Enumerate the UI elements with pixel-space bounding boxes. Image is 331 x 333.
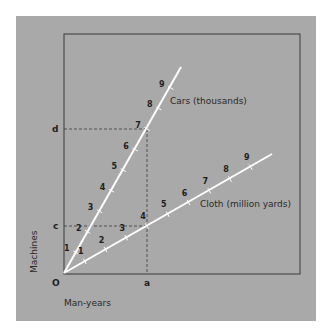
tick-label: 5 <box>161 200 167 209</box>
cloth-ray <box>64 154 272 273</box>
tick-label: 8 <box>147 100 153 109</box>
origin-label: O <box>52 278 60 288</box>
tick-label: 8 <box>223 165 229 174</box>
tick-label: 9 <box>244 153 250 162</box>
tick-label: 7 <box>202 177 208 186</box>
tick-label: 1 <box>78 247 84 256</box>
tick-label: 5 <box>112 162 118 171</box>
tick-label: 4 <box>140 212 146 221</box>
tick-label: 2 <box>76 224 82 233</box>
tick-label: 9 <box>159 80 165 89</box>
tick-label: 6 <box>123 142 129 151</box>
cars-label: Cars (thousands) <box>170 96 247 106</box>
y-marker-c: c <box>53 221 58 231</box>
tick-label: 1 <box>64 244 70 253</box>
tick-label: 6 <box>182 189 188 198</box>
tick-label: 3 <box>88 203 94 212</box>
tick-label: 7 <box>135 121 141 130</box>
tick-label: 4 <box>100 183 106 192</box>
y-axis-label: Machines <box>29 230 39 273</box>
isoquant-diagram: 123456789 123456789 Cars (thousands) Clo… <box>0 0 331 333</box>
tick-label: 2 <box>99 236 105 245</box>
y-marker-d: d <box>52 124 58 134</box>
cloth-label: Cloth (million yards) <box>200 199 291 209</box>
x-marker-a: a <box>144 278 150 288</box>
tick-label: 3 <box>119 224 125 233</box>
x-axis-label: Man-years <box>64 298 111 308</box>
